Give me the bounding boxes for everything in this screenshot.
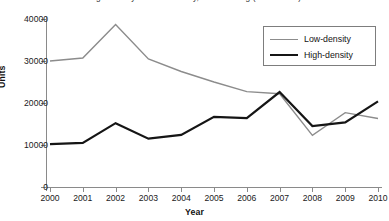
chart-legend: Low-density High-density [263,26,376,66]
series-line-high-density [50,92,378,144]
legend-line-swatch-low-density-icon [270,39,298,40]
chart-container: High-density and low-density, data housi… [0,0,389,221]
legend-item-high-density: High-density [270,47,353,63]
legend-line-swatch-high-density-icon [270,54,298,56]
legend-item-low-density: Low-density [270,31,351,47]
legend-label-low-density: Low-density [304,35,351,44]
legend-label-high-density: High-density [304,51,353,60]
